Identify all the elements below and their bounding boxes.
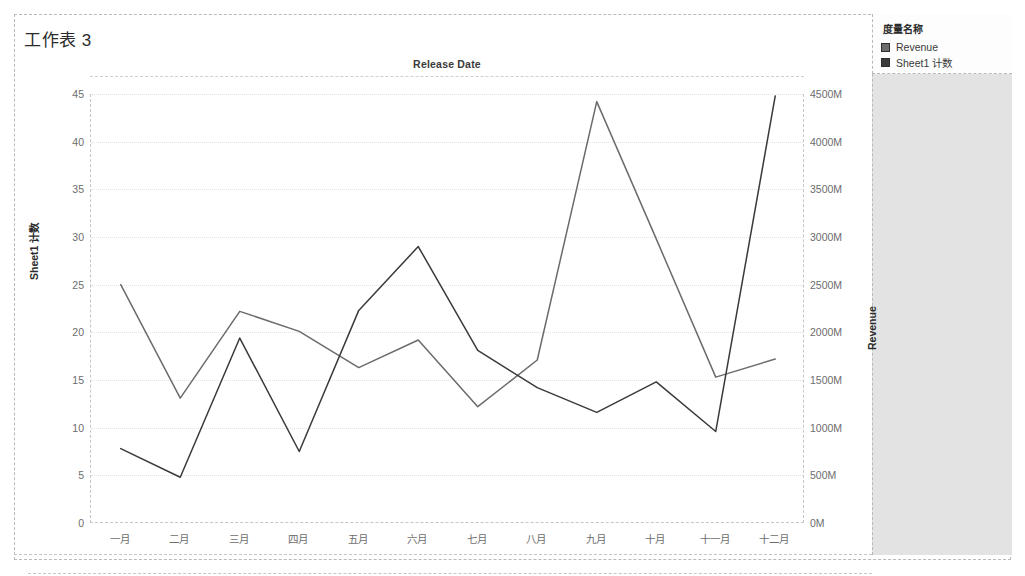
- legend-swatch-icon: [881, 58, 890, 67]
- y-axis-right-tick-label: 4500M: [810, 88, 842, 100]
- x-axis-tick-label: 一月: [110, 531, 130, 546]
- y-axis-right-tick-label: 2500M: [810, 279, 842, 291]
- legend-card[interactable]: 度量名称 Revenue Sheet1 计数: [872, 14, 1012, 74]
- y-axis-right-tick-label: 1500M: [810, 374, 842, 386]
- y-axis-right-tick-label: 3000M: [810, 231, 842, 243]
- y-axis-left-tick-label: 35: [48, 183, 84, 195]
- x-axis-tick-label: 七月: [467, 531, 487, 546]
- x-axis-tick-label: 八月: [526, 531, 546, 546]
- x-axis-tick-label: 二月: [169, 531, 189, 546]
- y-axis-left-tick-label: 45: [48, 88, 84, 100]
- legend-item-label: Revenue: [896, 41, 938, 53]
- y-axis-right-tick-label: 1000M: [810, 422, 842, 434]
- legend-item-label: Sheet1 计数: [896, 55, 952, 70]
- y-axis-right-tick-label: 2000M: [810, 326, 842, 338]
- column-header-divider: [90, 76, 804, 77]
- y-axis-right-tick-label: 4000M: [810, 136, 842, 148]
- x-axis-tick-label: 四月: [288, 531, 308, 546]
- y-axis-left-tick-label: 20: [48, 326, 84, 338]
- x-axis-tick-label: 五月: [348, 531, 368, 546]
- y-axis-right-tick-label: 0M: [810, 517, 825, 529]
- x-axis-tick-label: 三月: [229, 531, 249, 546]
- x-axis-tick-label: 十二月: [759, 531, 789, 546]
- y-axis-right-title: Revenue: [866, 306, 878, 350]
- y-axis-left-tick-label: 25: [48, 279, 84, 291]
- chart-container: Release Date Sheet1 计数 Revenue 051015202…: [14, 50, 872, 555]
- series-lines: [91, 94, 805, 523]
- y-axis-left-tick-label: 15: [48, 374, 84, 386]
- legend-item-revenue[interactable]: Revenue: [881, 41, 1004, 53]
- x-axis-bottom-rule: [14, 554, 872, 555]
- legend-swatch-icon: [881, 43, 890, 52]
- column-header-release-date: Release Date: [90, 58, 804, 70]
- x-axis-tick-label: 十月: [645, 531, 665, 546]
- y-axis-right-tick-label: 500M: [810, 469, 836, 481]
- y-axis-left-tick-label: 0: [48, 517, 84, 529]
- y-axis-left-tick-label: 30: [48, 231, 84, 243]
- series-line: [121, 102, 776, 407]
- x-axis-tick-label: 九月: [586, 531, 606, 546]
- plot-area: [90, 94, 804, 523]
- y-axis-left-title: Sheet1 计数: [26, 223, 41, 280]
- x-axis-rule: [28, 573, 872, 574]
- x-axis-tick-label: 六月: [407, 531, 427, 546]
- y-axis-left-tick-label: 40: [48, 136, 84, 148]
- y-axis-left-tick-label: 5: [48, 469, 84, 481]
- y-axis-left-tick-label: 10: [48, 422, 84, 434]
- legend-item-sheet1-count[interactable]: Sheet1 计数: [881, 55, 1004, 70]
- y-axis-right-tick-label: 3500M: [810, 183, 842, 195]
- legend-panel: [872, 14, 1012, 555]
- x-axis-tick-label: 十一月: [700, 531, 730, 546]
- page-title: 工作表 3: [24, 26, 92, 51]
- legend-title: 度量名称: [883, 21, 1004, 36]
- worksheet-canvas: 工作表 3 度量名称 Revenue Sheet1 计数 Release Dat…: [0, 0, 1025, 576]
